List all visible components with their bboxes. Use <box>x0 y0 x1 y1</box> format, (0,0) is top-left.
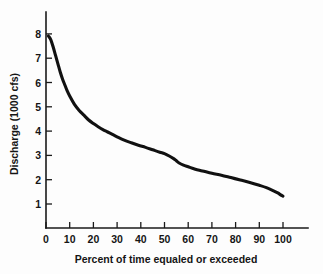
x-tick-label-40: 40 <box>135 233 147 245</box>
x-tick-label-70: 70 <box>206 233 218 245</box>
x-axis-ticks <box>46 222 283 228</box>
y-axis-title: Discharge (1000 cfs) <box>8 73 20 175</box>
x-tick-label-50: 50 <box>159 233 171 245</box>
x-axis-tick-labels: 0 10 20 30 40 50 60 70 80 90 100 <box>43 233 292 245</box>
y-tick-label-8: 8 <box>35 28 41 40</box>
y-tick-label-1: 1 <box>35 198 41 210</box>
x-tick-label-80: 80 <box>230 233 242 245</box>
x-tick-label-10: 10 <box>64 233 76 245</box>
y-tick-label-2: 2 <box>35 174 41 186</box>
x-tick-label-0: 0 <box>43 233 49 245</box>
x-tick-label-30: 30 <box>111 233 123 245</box>
x-tick-label-90: 90 <box>253 233 265 245</box>
x-tick-label-20: 20 <box>88 233 100 245</box>
y-tick-label-5: 5 <box>35 101 41 113</box>
x-tick-label-100: 100 <box>274 233 292 245</box>
x-tick-label-60: 60 <box>182 233 194 245</box>
x-axis-title: Percent of time equaled or exceeded <box>75 253 258 265</box>
y-tick-label-4: 4 <box>35 125 41 137</box>
flow-duration-chart: 1 2 3 4 5 6 7 8 0 10 20 3 <box>0 0 323 274</box>
y-tick-label-7: 7 <box>35 52 41 64</box>
discharge-curve <box>48 36 283 196</box>
y-tick-label-6: 6 <box>35 77 41 89</box>
y-tick-label-3: 3 <box>35 149 41 161</box>
chart-plot-area: 1 2 3 4 5 6 7 8 0 10 20 3 <box>0 0 323 274</box>
y-axis-tick-labels: 1 2 3 4 5 6 7 8 <box>35 28 41 210</box>
y-axis-ticks <box>46 34 52 204</box>
